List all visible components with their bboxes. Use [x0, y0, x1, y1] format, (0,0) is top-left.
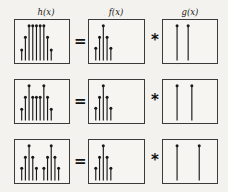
panel-f-row2 — [88, 79, 145, 124]
stem-marker — [20, 167, 23, 170]
stem-marker — [176, 84, 179, 87]
stem-marker — [42, 167, 45, 170]
stem-marker — [35, 24, 38, 27]
equals-operator-row3: = — [74, 154, 86, 169]
stem-marker — [35, 167, 38, 170]
panel-h-row3 — [14, 139, 70, 184]
stem-marker — [176, 24, 179, 27]
stem-marker — [102, 24, 105, 27]
stem-marker — [94, 47, 97, 50]
stem-marker — [98, 156, 101, 159]
stem-marker — [106, 36, 109, 39]
stem-marker — [102, 84, 105, 87]
stem-marker — [28, 84, 31, 87]
stem-marker — [106, 96, 109, 99]
stem-plot — [15, 20, 69, 63]
stem-marker — [24, 96, 27, 99]
stem-marker — [28, 24, 31, 27]
stem-marker — [39, 24, 42, 27]
stem-marker — [190, 84, 193, 87]
stem-marker — [102, 144, 105, 147]
panel-h-row1 — [14, 19, 70, 64]
panel-f-row1 — [88, 19, 145, 64]
stem-marker — [31, 24, 34, 27]
stem-marker — [187, 24, 190, 27]
column-label-f: f(x) — [96, 8, 136, 17]
stem-marker — [28, 144, 31, 147]
stem-marker — [106, 156, 109, 159]
stem-plot — [89, 80, 144, 123]
stem-marker — [46, 156, 49, 159]
stem-marker — [57, 167, 60, 170]
panel-f-row3 — [88, 139, 145, 184]
stem-marker — [20, 108, 23, 111]
convolution-operator-row2: * — [149, 93, 161, 108]
stem-marker — [24, 36, 27, 39]
convolution-operator-row1: * — [149, 33, 161, 48]
equals-operator-row1: = — [74, 34, 86, 49]
stem-marker — [109, 107, 112, 110]
panel-g-row1 — [162, 19, 218, 64]
stem-marker — [94, 107, 97, 110]
stem-marker — [50, 49, 53, 52]
stem-marker — [39, 96, 42, 99]
column-label-g: g(x) — [170, 8, 210, 17]
stem-marker — [35, 96, 38, 99]
stem-marker — [31, 96, 34, 99]
panel-g-row3 — [162, 139, 218, 184]
stem-marker — [176, 144, 179, 147]
stem-marker — [198, 144, 201, 147]
equals-operator-row2: = — [74, 94, 86, 109]
stem-marker — [46, 36, 49, 39]
convolution-operator-row3: * — [149, 153, 161, 168]
stem-marker — [109, 167, 112, 170]
stem-marker — [46, 96, 49, 99]
panel-h-row2 — [14, 79, 70, 124]
stem-marker — [42, 24, 45, 27]
stem-marker — [50, 144, 53, 147]
stem-plot — [15, 140, 69, 183]
stem-plot — [163, 140, 217, 183]
stem-plot — [89, 140, 144, 183]
stem-plot — [15, 80, 69, 123]
stem-plot — [163, 20, 217, 63]
stem-marker — [98, 96, 101, 99]
panel-g-row2 — [162, 79, 218, 124]
stem-marker — [109, 47, 112, 50]
stem-marker — [31, 156, 34, 159]
column-label-h: h(x) — [26, 8, 66, 17]
stem-marker — [24, 156, 27, 159]
stem-plot — [89, 20, 144, 63]
stem-marker — [94, 167, 97, 170]
stem-marker — [50, 108, 53, 111]
stem-marker — [42, 84, 45, 87]
stem-marker — [20, 49, 23, 52]
stem-marker — [53, 156, 56, 159]
convolution-figure: h(x) f(x) g(x) = * = * = * — [0, 0, 228, 192]
stem-marker — [98, 36, 101, 39]
stem-plot — [163, 80, 217, 123]
